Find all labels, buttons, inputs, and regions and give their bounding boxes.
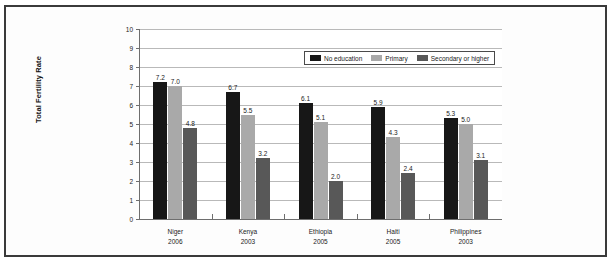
bar[interactable] [459, 124, 473, 219]
figure-frame: Total Fertility Rate 109876543210 7.27.0… [4, 5, 607, 257]
chart-legend: No educationPrimarySecondary or higher [304, 51, 495, 65]
y-tick-label: 0 [129, 216, 133, 223]
category-year: 2003 [450, 237, 481, 247]
bar-value-label: 5.0 [461, 116, 470, 123]
y-tick-label: 9 [129, 45, 133, 52]
legend-item[interactable]: No education [310, 55, 362, 62]
x-category-label: Haiti2005 [386, 227, 400, 246]
legend-swatch-icon [310, 55, 321, 61]
y-tick-label: 10 [126, 26, 133, 33]
x-category-label: Niger2006 [168, 227, 184, 246]
bar[interactable] [444, 118, 458, 219]
x-category-label: Philippines2003 [450, 227, 481, 246]
y-tick-label: 7 [129, 83, 133, 90]
y-tick-label: 6 [129, 102, 133, 109]
category-year: 2003 [239, 237, 257, 247]
bar[interactable] [474, 160, 488, 219]
category-name: Ethiopia [309, 227, 333, 237]
y-tick-label: 8 [129, 64, 133, 71]
bar-value-label: 3.1 [476, 152, 485, 159]
legend-label: Secondary or higher [431, 55, 490, 62]
legend-swatch-icon [417, 55, 428, 61]
category-year: 2005 [309, 237, 333, 247]
category-name: Philippines [450, 227, 481, 237]
y-tick-label: 2 [129, 178, 133, 185]
legend-swatch-icon [371, 55, 382, 61]
y-tick-label: 5 [129, 121, 133, 128]
legend-label: Primary [385, 55, 407, 62]
y-tick-label: 1 [129, 197, 133, 204]
bar-value-label: 5.3 [446, 110, 455, 117]
y-tick-mark [136, 219, 139, 220]
legend-item[interactable]: Primary [371, 55, 407, 62]
category-year: 2006 [168, 237, 184, 247]
x-category-label: Kenya2003 [239, 227, 257, 246]
category-name: Niger [168, 227, 184, 237]
category-year: 2005 [386, 237, 400, 247]
category-name: Haiti [386, 227, 400, 237]
category-name: Kenya [239, 227, 257, 237]
gridline [139, 219, 502, 220]
y-tick-label: 4 [129, 140, 133, 147]
x-category-label: Ethiopia2005 [309, 227, 333, 246]
legend-label: No education [324, 55, 362, 62]
y-tick-label: 3 [129, 159, 133, 166]
y-axis-title: Total Fertility Rate [34, 25, 43, 155]
bar-chart: Total Fertility Rate 109876543210 7.27.0… [6, 7, 605, 255]
legend-item[interactable]: Secondary or higher [417, 55, 490, 62]
